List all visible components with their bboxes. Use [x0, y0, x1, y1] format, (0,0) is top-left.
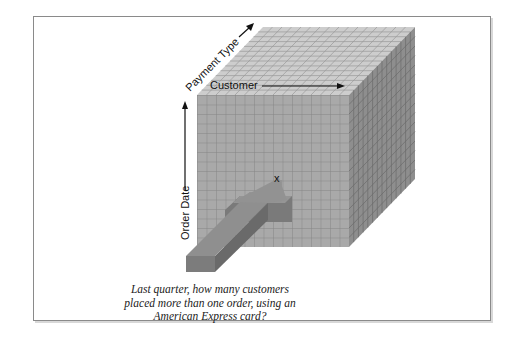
caption-line-2: placed more than one order, using an [90, 297, 330, 311]
order-date-label: Order Date [179, 186, 191, 240]
caption-line-3: American Express card? [90, 310, 330, 324]
question-caption: Last quarter, how many customers placed … [90, 283, 330, 324]
customer-label: Customer [210, 79, 258, 91]
order-date-axis: Order Date [179, 101, 191, 240]
target-marker: x [274, 172, 280, 184]
caption-line-1: Last quarter, how many customers [90, 283, 330, 297]
